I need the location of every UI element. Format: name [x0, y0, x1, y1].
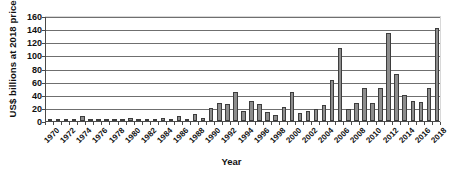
y-axis-tick-label: 80	[32, 65, 42, 74]
bar	[394, 74, 399, 121]
bar	[56, 119, 61, 121]
bar	[112, 119, 117, 121]
bar	[169, 119, 174, 121]
y-axis-tick-mark	[42, 109, 46, 110]
y-axis-tick-label: 60	[32, 78, 42, 87]
y-axis-tick-label: 100	[27, 52, 42, 61]
y-axis-title: US$ billions at 2018 prices	[7, 6, 18, 118]
bar-chart: US$ billions at 2018 prices 020406080100…	[0, 0, 463, 176]
bar	[193, 114, 198, 121]
bar	[209, 108, 214, 121]
y-axis-tick-mark	[42, 56, 46, 57]
bar	[290, 92, 295, 121]
bar	[402, 95, 407, 121]
y-axis-title-container: US$ billions at 2018 prices	[0, 0, 22, 130]
bar	[378, 88, 383, 121]
bar	[64, 119, 69, 121]
bar	[217, 103, 222, 121]
y-axis-tick-label: 120	[27, 39, 42, 48]
bar	[128, 118, 133, 121]
bar	[386, 33, 391, 121]
bar	[80, 116, 85, 121]
bar	[354, 103, 359, 121]
bar	[314, 109, 319, 121]
plot-area	[45, 17, 440, 122]
bar	[273, 115, 278, 121]
bar	[370, 103, 375, 121]
bar	[177, 116, 182, 121]
bar	[298, 113, 303, 121]
y-axis-tick-mark	[42, 43, 46, 44]
bar	[88, 119, 93, 121]
x-axis-title: Year	[0, 156, 463, 167]
bar	[104, 119, 109, 121]
y-axis-tick-mark	[42, 30, 46, 31]
y-axis-tick-mark	[42, 83, 46, 84]
bar	[161, 118, 166, 121]
y-axis-tick-mark	[42, 17, 46, 18]
y-axis-tick-mark	[42, 96, 46, 97]
bar-series	[46, 17, 440, 121]
bar	[435, 28, 440, 121]
plot-right-border	[440, 17, 441, 122]
bar	[282, 107, 287, 121]
bar	[306, 111, 311, 121]
y-axis-tick-label: 20	[32, 104, 42, 113]
bar	[185, 119, 190, 121]
y-axis-tick-label: 140	[27, 26, 42, 35]
bar	[225, 104, 230, 121]
bar	[346, 109, 351, 121]
y-axis-tick-mark	[42, 70, 46, 71]
bar	[136, 119, 141, 121]
bar	[411, 101, 416, 121]
y-axis-tick-label: 160	[27, 13, 42, 22]
x-axis-tick-labels: 1970197219741976197819801982198419861988…	[0, 124, 463, 154]
bar	[362, 88, 367, 121]
bar	[153, 119, 158, 121]
bar	[257, 104, 262, 121]
bar	[249, 101, 254, 121]
bar	[330, 80, 335, 121]
y-axis-tick-label: 40	[32, 91, 42, 100]
bar	[145, 119, 150, 121]
bar	[72, 119, 77, 121]
y-axis-tick-labels: 020406080100120140160	[20, 0, 44, 130]
bar	[201, 118, 206, 121]
bar	[427, 88, 432, 121]
bar	[419, 102, 424, 121]
bar	[338, 48, 343, 121]
bar	[48, 119, 53, 121]
bar	[322, 105, 327, 121]
bar	[241, 111, 246, 121]
bar	[265, 112, 270, 121]
bar	[96, 119, 101, 121]
bar	[120, 119, 125, 121]
bar	[233, 92, 238, 121]
